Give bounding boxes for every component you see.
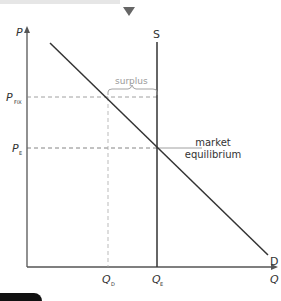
market-label: market (195, 137, 231, 148)
qd-label: Q (102, 273, 111, 286)
pfix-subscript: FIX (14, 99, 22, 105)
bottom-tab (0, 293, 42, 301)
surplus-brace (108, 85, 157, 95)
supply-demand-diagram: P Q S D P FIX P E Q D Q E surplus market… (0, 0, 281, 301)
quantity-axis-label: Q (270, 273, 279, 286)
equilibrium-label: equilibrium (185, 149, 242, 160)
pe-label: P (12, 142, 19, 155)
supply-label: S (153, 28, 160, 41)
qd-subscript: D (111, 281, 115, 287)
pe-subscript: E (19, 150, 22, 156)
demand-label: D (270, 255, 278, 268)
surplus-label: surplus (115, 76, 148, 86)
price-axis-arrow-icon (24, 26, 30, 33)
down-arrow-icon (123, 7, 135, 16)
pfix-label: P (6, 91, 13, 104)
price-axis-label: P (16, 26, 23, 39)
qe-subscript: E (160, 281, 163, 287)
